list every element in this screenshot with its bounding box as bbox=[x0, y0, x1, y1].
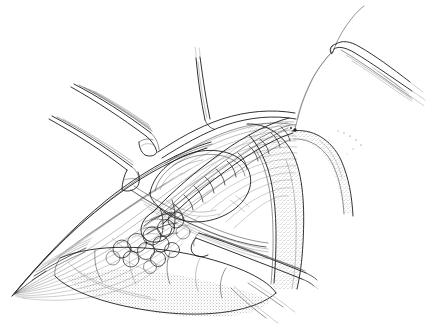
illustration-canvas bbox=[0, 0, 431, 329]
paper-background bbox=[0, 0, 431, 329]
suture-knot bbox=[293, 128, 296, 131]
suture-knot-secondary bbox=[290, 127, 292, 129]
surgical-illustration-figure bbox=[0, 0, 431, 329]
